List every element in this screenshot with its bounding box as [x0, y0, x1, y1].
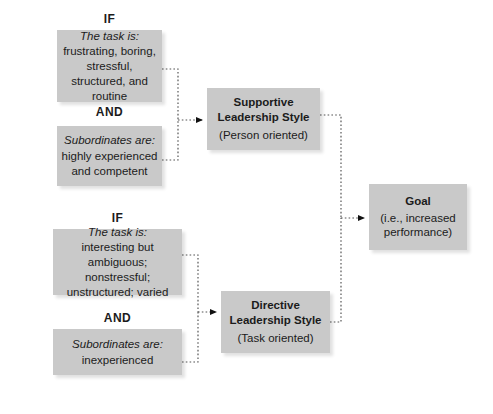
- diagram-canvas: IF AND IF AND The task is: frustrating, …: [0, 0, 493, 414]
- style-title-supportive: Supportive Leadership Style: [211, 95, 316, 124]
- condition-box-task-top: The task is: frustrating, boring, stress…: [57, 30, 162, 102]
- condition-body-task-bottom: interesting but ambiguous; nonstressful;…: [57, 240, 178, 299]
- condition-body-subordinates-top: highly experienced and competent: [61, 149, 158, 178]
- style-box-directive: Directive Leadership Style (Task oriente…: [221, 291, 330, 353]
- condition-head-subordinates-top: Subordinates are:: [64, 133, 155, 148]
- operator-label-and-top: AND: [57, 105, 162, 119]
- operator-label-if-bottom: IF: [53, 211, 182, 225]
- goal-box: Goal (i.e., increased performance): [369, 184, 467, 250]
- condition-box-subordinates-bottom: Subordinates are: inexperienced: [53, 329, 182, 375]
- connector-task-top-to-supportive: [162, 69, 178, 120]
- condition-box-subordinates-top: Subordinates are: highly experienced and…: [57, 126, 162, 186]
- connector-subordinates-top-to-supportive: [162, 120, 178, 160]
- connector-directive-to-goal: [330, 218, 341, 322]
- condition-head-subordinates-bottom: Subordinates are:: [72, 337, 163, 352]
- operator-label-if-top: IF: [57, 12, 162, 26]
- style-box-supportive: Supportive Leadership Style (Person orie…: [207, 88, 320, 150]
- style-subtitle-supportive: (Person oriented): [219, 128, 308, 143]
- condition-body-task-top: frustrating, boring, stressful, structur…: [61, 44, 158, 103]
- goal-subtitle: (i.e., increased performance): [369, 211, 467, 240]
- style-title-directive: Directive Leadership Style: [225, 298, 326, 327]
- operator-label-and-bottom: AND: [53, 311, 182, 325]
- condition-head-task-top: The task is:: [80, 29, 139, 44]
- connector-supportive-to-goal: [320, 115, 341, 218]
- condition-head-task-bottom: The task is:: [88, 225, 147, 240]
- style-subtitle-directive: (Task oriented): [237, 331, 313, 346]
- connector-subordinates-bottom-to-directive: [182, 312, 198, 362]
- connector-task-bottom-to-directive: [182, 255, 198, 312]
- condition-box-task-bottom: The task is: interesting but ambiguous; …: [53, 229, 182, 295]
- goal-title: Goal: [405, 194, 431, 209]
- condition-body-subordinates-bottom: inexperienced: [82, 353, 154, 368]
